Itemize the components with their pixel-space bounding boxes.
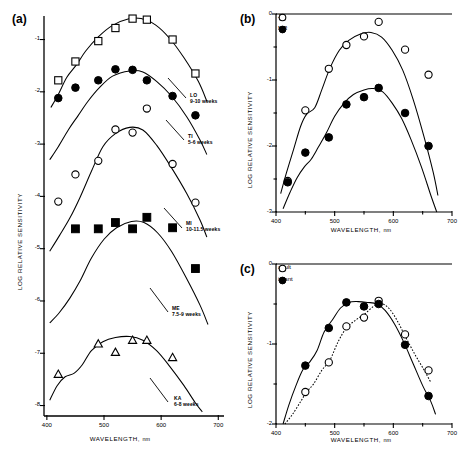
- panel-c: (c) LOG RELATIVE SENSITIVITY WAVELENGTH,…: [236, 240, 471, 452]
- panel-b-point-JV: [401, 46, 408, 53]
- panel-c-point-infant: [425, 392, 433, 400]
- panel-b-ytick--2: -2: [250, 142, 272, 148]
- panel-a-point-ME: [112, 219, 120, 227]
- panel-b-point-MR: [284, 179, 292, 187]
- panel-b-xtick-600: 600: [381, 218, 405, 224]
- panel-a-series-label-TI: TI5-6 weeks: [188, 133, 213, 146]
- panel-a-xtick-500: 500: [92, 422, 116, 428]
- panel-c-point-infant: [360, 303, 368, 311]
- panel-c-xtick-400: 400: [264, 430, 288, 436]
- panel-c-ytick-0: 0: [250, 260, 272, 266]
- panel-a-point-KA: [143, 336, 151, 343]
- panel-a-point-LO: [169, 36, 176, 43]
- panel-b-point-MR: [375, 84, 383, 92]
- panel-a-ytick--7: -7: [18, 349, 40, 355]
- panel-a-leader-line-TI: [166, 120, 184, 140]
- panel-a-point-TI: [112, 66, 120, 74]
- panel-a-ytick--6: -6: [18, 296, 40, 302]
- panel-a-curve-TI: [50, 70, 207, 159]
- panel-a-point-LO: [55, 77, 62, 84]
- panel-a-point-MI: [192, 199, 199, 206]
- panel-c-ytick--2: -2: [250, 420, 272, 426]
- panel-b-ytick--1: -1: [250, 76, 272, 82]
- panel-c-point-infant: [325, 324, 333, 332]
- panel-a-series-age-MI: 10-11.5 weeks: [186, 226, 220, 232]
- panel-b-point-JV: [360, 33, 367, 40]
- panel-a-series-age-TI: 5-6 weeks: [188, 139, 213, 145]
- panel-b-xtick-400: 400: [264, 218, 288, 224]
- panel-a-point-MI: [129, 129, 136, 136]
- panel-a-point-MI: [95, 157, 102, 164]
- panel-c-point-adult: [425, 367, 432, 374]
- panel-c-point-adult: [401, 331, 408, 338]
- panel-a-point-TI: [169, 92, 177, 100]
- panel-a-series-label-ME: ME7.5-9 weeks: [172, 305, 201, 318]
- panel-a-point-LO: [192, 70, 199, 77]
- panel-c-point-adult: [343, 323, 350, 330]
- panel-c-xtick-600: 600: [381, 430, 405, 436]
- panel-a-point-KA: [168, 353, 176, 360]
- panel-a-point-TI: [54, 94, 62, 102]
- panel-a: (a) LOG RELATIVE SENSITIVITY WAVELENGTH,…: [0, 0, 236, 452]
- panel-a-point-MI: [72, 171, 79, 178]
- panel-a-point-MI: [55, 198, 62, 205]
- panel-a-point-ME: [94, 225, 102, 233]
- panel-a-point-TI: [143, 77, 151, 85]
- panel-b-point-MR: [360, 93, 368, 101]
- panel-a-ytick--1: -1: [18, 35, 40, 41]
- panel-a-series-label-MI: MI10-11.5 weeks: [186, 220, 220, 233]
- panel-a-point-MI: [112, 126, 119, 133]
- panel-a-point-TI: [192, 112, 200, 120]
- panel-a-ytick--8: -8: [18, 401, 40, 407]
- panel-a-xtick-400: 400: [35, 422, 59, 428]
- panel-c-point-infant: [401, 341, 409, 349]
- panel-c-point-infant: [375, 300, 383, 308]
- panel-a-point-ME: [129, 225, 137, 233]
- panel-a-xtick-600: 600: [149, 422, 173, 428]
- panel-a-point-MI: [169, 160, 176, 167]
- panel-a-point-ME: [169, 224, 177, 232]
- panel-c-point-adult: [302, 388, 309, 395]
- panel-b-point-JV: [343, 41, 350, 48]
- panel-a-point-KA: [54, 370, 62, 377]
- panel-a-ytick--3: -3: [18, 140, 40, 146]
- panel-a-series-label-KA: KA6-8 weeks: [174, 395, 199, 408]
- panel-b: (b) LOG RELATIVE SENSITIVITY WAVELENGTH,…: [236, 0, 471, 240]
- panel-a-point-MI: [143, 105, 150, 112]
- panel-b-point-MR: [401, 109, 409, 117]
- panel-c-ytick--1: -1: [250, 340, 272, 346]
- panel-b-point-JV: [302, 107, 309, 114]
- panel-b-point-JV: [375, 18, 382, 25]
- panel-c-xtick-700: 700: [440, 430, 464, 436]
- panel-b-point-MR: [343, 101, 351, 109]
- panel-b-point-MR: [425, 142, 433, 150]
- panel-c-xtick-500: 500: [323, 430, 347, 436]
- panel-a-xtick-700: 700: [206, 422, 230, 428]
- panel-b-point-MR: [302, 149, 310, 157]
- panel-b-xtick-500: 500: [323, 218, 347, 224]
- panel-a-point-KA: [111, 348, 119, 355]
- panel-a-series-age-KA: 6-8 weeks: [174, 401, 199, 407]
- panel-a-leader-line-ME: [150, 288, 168, 312]
- panel-a-ytick--2: -2: [18, 87, 40, 93]
- panel-a-ytick--5: -5: [18, 244, 40, 250]
- panel-b-xtick-700: 700: [440, 218, 464, 224]
- panel-a-point-LO: [129, 15, 136, 22]
- panel-c-point-infant: [302, 362, 310, 370]
- panel-c-point-infant: [343, 299, 351, 307]
- panel-a-series-age-LO: 9-10 weeks: [190, 98, 217, 104]
- panel-a-ytick--4: -4: [18, 192, 40, 198]
- panel-b-point-JV: [425, 71, 432, 78]
- panel-b-point-JV: [325, 65, 332, 72]
- panel-b-plot: [236, 0, 471, 240]
- panel-a-leader-line-KA: [150, 378, 168, 402]
- panel-c-point-adult: [325, 359, 332, 366]
- panel-a-point-KA: [94, 340, 102, 347]
- panel-a-point-LO: [112, 24, 119, 31]
- panel-b-ytick--3: -3: [250, 208, 272, 214]
- panel-c-frame: [276, 264, 452, 424]
- panel-a-point-LO: [95, 37, 102, 44]
- panel-a-series-age-ME: 7.5-9 weeks: [172, 311, 201, 317]
- panel-a-point-TI: [72, 84, 80, 92]
- panel-a-point-TI: [129, 66, 137, 74]
